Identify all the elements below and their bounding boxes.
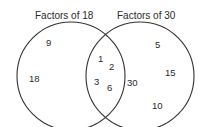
number-9: 9: [46, 38, 51, 48]
number-3: 3: [94, 77, 99, 87]
number-18: 18: [29, 74, 40, 84]
label-factors-of-30: Factors of 30: [117, 11, 175, 21]
circle-factors-of-30: [86, 22, 194, 127]
number-10: 10: [152, 101, 163, 111]
number-2: 2: [109, 62, 114, 72]
label-factors-of-18: Factors of 18: [35, 11, 93, 21]
number-30: 30: [127, 78, 138, 88]
number-6: 6: [107, 83, 112, 93]
number-5: 5: [155, 40, 160, 50]
number-1: 1: [98, 54, 103, 64]
number-15: 15: [165, 68, 176, 78]
